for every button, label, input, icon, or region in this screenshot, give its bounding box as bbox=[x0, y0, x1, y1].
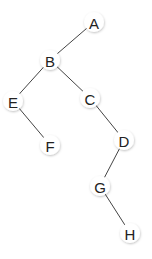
tree-node-g: G bbox=[90, 176, 110, 196]
node-label: H bbox=[125, 226, 136, 243]
tree-node-h: H bbox=[120, 223, 140, 243]
node-label: D bbox=[119, 133, 130, 150]
tree-node-b: B bbox=[40, 50, 60, 70]
node-label: C bbox=[85, 91, 96, 108]
node-label: B bbox=[45, 53, 55, 70]
node-label: E bbox=[8, 94, 18, 111]
tree-nodes: ABECFDGH bbox=[3, 12, 140, 243]
tree-edges bbox=[13, 22, 130, 233]
tree-node-c: C bbox=[80, 88, 100, 108]
tree-node-d: D bbox=[114, 130, 134, 150]
tree-diagram: ABECFDGH bbox=[0, 0, 152, 259]
node-label: F bbox=[45, 138, 54, 155]
tree-node-e: E bbox=[3, 91, 23, 111]
tree-node-f: F bbox=[40, 135, 60, 155]
node-label: A bbox=[89, 15, 99, 32]
tree-node-a: A bbox=[84, 12, 104, 32]
node-label: G bbox=[94, 179, 106, 196]
